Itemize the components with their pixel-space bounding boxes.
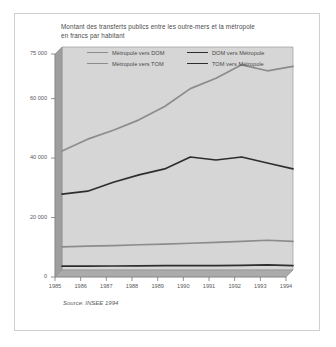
legend-label: TOM vers Métropole: [212, 61, 264, 67]
source-note: Source: INSEE 1994: [63, 300, 118, 306]
legend-item: DOM vers Métropole: [187, 50, 287, 56]
legend-swatch: [187, 52, 208, 53]
x-tick-label: 1992: [221, 283, 249, 289]
legend-item: Métropole vers TOM: [87, 61, 187, 67]
legend-row: Métropole vers TOMTOM vers Métropole: [87, 58, 287, 69]
x-tick-label: 1994: [272, 283, 300, 289]
y-tick-label: 0: [44, 273, 47, 279]
legend-item: TOM vers Métropole: [187, 61, 287, 67]
legend-swatch: [87, 52, 108, 53]
x-tick-label: 1989: [144, 283, 172, 289]
legend-label: Métropole vers TOM: [112, 61, 164, 67]
y-axis-ticks: [51, 54, 55, 277]
x-tick-label: 1985: [41, 283, 69, 289]
x-tick-label: 1986: [67, 283, 95, 289]
y-tick-label: 20 000: [30, 214, 47, 220]
chart-legend: Métropole vers DOMDOM vers MétropoleMétr…: [87, 47, 287, 69]
x-axis-ticks: [55, 277, 286, 281]
x-tick-label: 1988: [118, 283, 146, 289]
x-tick-label: 1991: [195, 283, 223, 289]
legend-item: Métropole vers DOM: [87, 50, 187, 56]
x-tick-label: 1990: [169, 283, 197, 289]
legend-label: Métropole vers DOM: [112, 50, 164, 56]
legend-swatch: [187, 63, 208, 64]
y-tick-label: 40 000: [30, 154, 47, 160]
legend-row: Métropole vers DOMDOM vers Métropole: [87, 47, 287, 58]
x-tick-label: 1993: [246, 283, 274, 289]
plot-3d-box: [55, 47, 293, 277]
legend-label: DOM vers Métropole: [212, 50, 264, 56]
figure-frame: Montant des transferts publics entre les…: [14, 13, 320, 331]
y-tick-label: 60 000: [30, 95, 47, 101]
x-tick-label: 1987: [92, 283, 120, 289]
legend-swatch: [87, 63, 108, 64]
y-tick-label: 75 000: [30, 50, 47, 56]
